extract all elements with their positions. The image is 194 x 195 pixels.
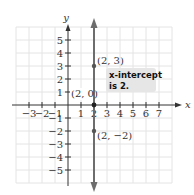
x-tick-label: 6 xyxy=(143,108,149,119)
point-label-2-3: (2, 3) xyxy=(97,55,124,66)
line-top-arrow-icon xyxy=(91,18,98,28)
callout-line-2: is 2. xyxy=(109,81,129,91)
callout-line-1: x-intercept xyxy=(109,70,162,80)
y-axis-label: y xyxy=(62,12,69,23)
y-tick-label: 3 xyxy=(57,61,63,72)
x-intercept-callout: x-intercept is 2. xyxy=(106,68,162,92)
y-tick-label: −2 xyxy=(48,126,63,137)
y-tick-label: −4 xyxy=(48,152,63,163)
point-label-2-neg2: (2, −2) xyxy=(97,130,132,141)
y-tick-label: −5 xyxy=(48,165,63,176)
y-tick-label: 2 xyxy=(57,74,63,85)
coordinate-plane: x −3 −2 −1 1 2 3 4 5 6 7 y 5 4 3 2 1 xyxy=(0,0,194,195)
point-2-neg2 xyxy=(92,129,96,133)
x-tick-label: 1 xyxy=(78,108,84,119)
y-tick-label: 1 xyxy=(57,87,63,98)
y-tick-label: −3 xyxy=(48,139,63,150)
point-2-0 xyxy=(92,103,97,108)
x-tick-label: 5 xyxy=(130,108,136,119)
y-tick-label: 4 xyxy=(57,48,63,59)
point-2-3 xyxy=(92,64,96,68)
point-label-2-0: (2, 0) xyxy=(71,88,98,99)
x-tick-label: 3 xyxy=(104,108,110,119)
x-tick-label: 4 xyxy=(117,108,123,119)
y-tick-label: −1 xyxy=(48,113,63,124)
x-axis-label: x xyxy=(185,99,191,110)
x-axis: x −3 −2 −1 1 2 3 4 5 6 7 xyxy=(12,99,191,119)
x-axis-arrow-icon xyxy=(175,103,182,108)
x-tick-label: 7 xyxy=(156,108,162,119)
y-tick-label: 5 xyxy=(57,35,63,46)
line-bottom-arrow-icon xyxy=(91,182,98,192)
y-axis: y 5 4 3 2 1 −1 −2 −3 −4 −5 xyxy=(48,12,71,186)
